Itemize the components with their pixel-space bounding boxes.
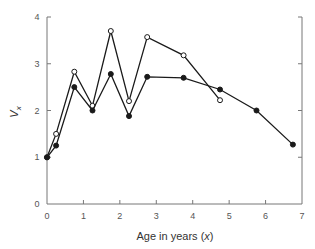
x-tick-label: 6 [263, 211, 268, 221]
open-circle-marker [145, 35, 150, 40]
axes [47, 17, 302, 204]
filled-circle-marker [290, 142, 295, 147]
data-series [45, 29, 296, 160]
series-line [47, 74, 293, 157]
open-circle-marker [54, 131, 59, 136]
filled-circle-marker [181, 75, 186, 80]
open-circle-marker [127, 99, 132, 104]
x-tick-label: 7 [299, 211, 304, 221]
open-circle-marker [108, 29, 113, 34]
filled-circle-marker [218, 87, 223, 92]
open-circle-marker [181, 53, 186, 58]
filled-circle-marker [127, 114, 132, 119]
filled-circle-marker [108, 72, 113, 77]
x-tick-label: 4 [190, 211, 195, 221]
series-line [47, 31, 220, 157]
series-filled-circles [45, 72, 296, 160]
filled-circle-marker [45, 155, 50, 160]
filled-circle-marker [145, 74, 150, 79]
y-axis-ticks: 01234 [34, 12, 302, 209]
x-tick-label: 1 [81, 211, 86, 221]
x-tick-label: 3 [154, 211, 159, 221]
x-axis-label: Age in years (x) [136, 230, 213, 242]
x-tick-label: 2 [117, 211, 122, 221]
open-circle-marker [72, 69, 77, 74]
y-tick-label: 4 [34, 12, 39, 22]
y-tick-label: 1 [34, 152, 39, 162]
filled-circle-marker [254, 108, 259, 113]
filled-circle-marker [54, 143, 59, 148]
axis-frame [47, 17, 302, 204]
x-axis-ticks: 01234567 [44, 200, 304, 221]
y-tick-label: 3 [34, 59, 39, 69]
filled-circle-marker [90, 108, 95, 113]
filled-circle-marker [72, 85, 77, 90]
series-open-circles [45, 29, 223, 160]
x-tick-label: 5 [227, 211, 232, 221]
open-circle-marker [218, 98, 223, 103]
y-tick-label: 2 [34, 106, 39, 116]
x-tick-label: 0 [44, 211, 49, 221]
y-axis-label: Vx [8, 105, 23, 117]
survival-value-chart: 01234567 01234 Age in years (x) Vx [0, 0, 315, 249]
y-tick-label: 0 [34, 199, 39, 209]
